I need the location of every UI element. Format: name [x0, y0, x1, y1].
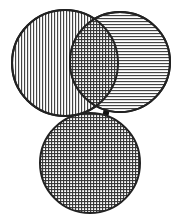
venn-diagram — [0, 0, 177, 218]
circle-bottom — [40, 113, 140, 213]
